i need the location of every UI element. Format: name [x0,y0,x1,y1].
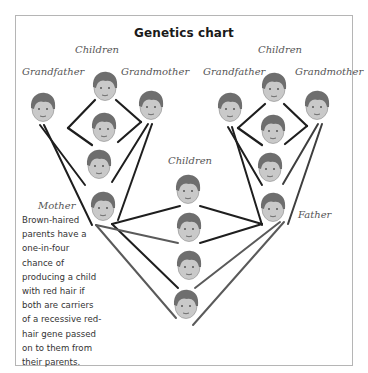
head-child-center-4 [174,290,198,319]
head-child-right-middle [261,115,285,144]
head-child-center-1 [176,175,200,204]
head-child-center-2 [177,213,201,242]
head-mother [91,192,115,221]
head-child-right-lower [258,153,282,182]
family-tree-diagram [0,0,368,373]
head-child-right-top [262,73,286,102]
head-father [261,193,285,222]
head-grandfather-right [218,93,242,122]
head-grandfather-left [31,93,55,122]
head-child-center-3 [177,251,201,280]
head-grandmother-left [139,91,163,120]
head-grandmother-right [305,91,329,120]
head-child-left-top [93,72,117,101]
head-child-left-middle [92,113,116,142]
head-child-left-lower [87,150,111,179]
